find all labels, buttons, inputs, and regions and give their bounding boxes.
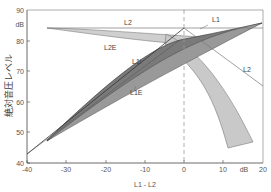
bands: [47, 23, 262, 148]
label-L2-right: L2: [243, 66, 251, 73]
y-tick-label: 60: [16, 99, 24, 106]
y-ticks: 40 50 60 70 80 90 dB: [15, 7, 30, 167]
y-tick-label: 70: [16, 68, 24, 75]
x-tick-label: 10: [219, 166, 227, 173]
label-L2E: L2E: [104, 44, 117, 51]
y-tick-label: 90: [16, 7, 24, 14]
x-unit-label: dB: [240, 166, 249, 173]
y-tick-label: 50: [16, 129, 24, 136]
label-L1-top: L1: [212, 16, 220, 23]
x-ticks: -40 -30 -20 -10 0 10 dB 20: [22, 160, 267, 173]
line-L1i: [27, 40, 180, 154]
x-tick-label: -40: [22, 166, 32, 173]
y-unit-label: dB: [15, 21, 24, 28]
x-tick-label: 20: [259, 166, 267, 173]
x-tick-label: 0: [182, 166, 186, 173]
y-axis-title: 絶対音圧レベル: [3, 54, 14, 117]
label-L1i: L1i: [132, 58, 142, 65]
chart: 40 50 60 70 80 90 dB -40 -30 -20 -10 0 1…: [0, 0, 271, 192]
y-tick-label: 80: [16, 38, 24, 45]
label-L1E: L1E: [130, 89, 143, 96]
x-tick-label: -30: [61, 166, 71, 173]
x-axis-title: L1 - L2: [134, 181, 156, 188]
x-tick-label: -20: [101, 166, 111, 173]
x-tick-label: -10: [140, 166, 150, 173]
label-L2-top: L2: [124, 19, 132, 26]
